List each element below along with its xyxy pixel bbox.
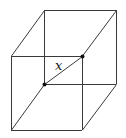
back-face (44, 10, 117, 85)
diagonal-label: x (55, 58, 63, 73)
connect-top-right (83, 11, 117, 57)
connect-bottom-right (83, 85, 117, 131)
connect-top-left (12, 11, 45, 57)
vertex-dot-front-top-right (81, 55, 85, 59)
space-diagonal (45, 57, 83, 85)
front-face (11, 56, 83, 131)
vertex-dot-back-bottom-left (43, 83, 47, 87)
connect-bottom-left (12, 85, 45, 131)
cube-diagram: x (0, 0, 126, 138)
